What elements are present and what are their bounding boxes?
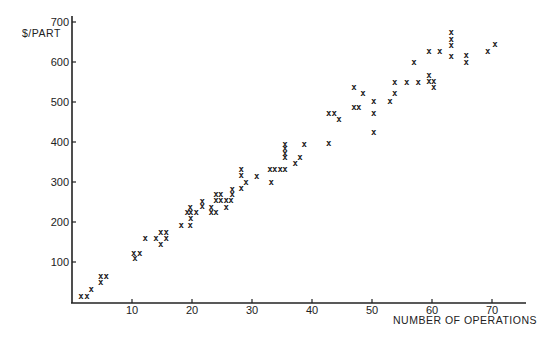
y-tick-label: 200 — [51, 216, 69, 228]
y-tick-label: 600 — [51, 56, 69, 68]
data-point-x-marker: x — [229, 189, 235, 199]
data-point-x-marker: x — [492, 39, 498, 49]
x-tick-label: 50 — [366, 304, 378, 316]
y-tick-label: 300 — [51, 176, 69, 188]
data-point-x-marker: x — [292, 158, 298, 168]
data-point-x-marker: x — [163, 233, 169, 243]
data-point-x-marker: x — [213, 207, 219, 217]
data-point-x-marker: x — [88, 284, 94, 294]
data-point-x-marker: x — [98, 277, 104, 287]
data-point-x-marker: x — [356, 102, 362, 112]
data-point-x-marker: x — [448, 40, 454, 50]
data-point-x-marker: x — [142, 233, 148, 243]
data-points: xxxxxxxxxxxxxxxxxxxxxxxxxxxxxxxxxxxxxxxx… — [78, 27, 498, 301]
data-point-x-marker: x — [415, 77, 421, 87]
data-point-x-marker: x — [199, 201, 205, 211]
data-point-x-marker: x — [392, 88, 398, 98]
y-axis-title: $/PART — [22, 27, 61, 39]
data-point-x-marker: x — [351, 82, 357, 92]
data-point-x-marker: x — [282, 152, 288, 162]
x-tick-label: 40 — [306, 304, 318, 316]
x-tick-label: 20 — [186, 304, 198, 316]
data-point-x-marker: x — [188, 213, 194, 223]
data-point-x-marker: x — [132, 253, 138, 263]
data-point-x-marker: x — [103, 271, 109, 281]
data-point-x-marker: x — [437, 46, 443, 56]
data-point-x-marker: x — [282, 164, 288, 174]
data-point-x-marker: x — [371, 96, 377, 106]
data-point-x-marker: x — [268, 177, 274, 187]
data-point-x-marker: x — [158, 239, 164, 249]
scatter-chart: 100200300400500600700 10203040506070 $/P… — [0, 0, 557, 344]
data-point-x-marker: x — [404, 77, 410, 87]
data-point-x-marker: x — [254, 171, 260, 181]
data-point-x-marker: x — [448, 51, 454, 61]
data-point-x-marker: x — [297, 152, 303, 162]
data-point-x-marker: x — [411, 57, 417, 67]
y-tick-label: 400 — [51, 136, 69, 148]
data-point-x-marker: x — [426, 46, 432, 56]
data-point-x-marker: x — [371, 127, 377, 137]
x-axis-title: NUMBER OF OPERATIONS — [393, 314, 537, 326]
x-tick-label: 30 — [246, 304, 258, 316]
data-point-x-marker: x — [371, 108, 377, 118]
data-point-x-marker: x — [326, 138, 332, 148]
x-tick-label: 10 — [126, 304, 138, 316]
data-point-x-marker: x — [360, 88, 366, 98]
data-point-x-marker: x — [485, 46, 491, 56]
data-point-x-marker: x — [137, 248, 143, 258]
y-tick-label: 500 — [51, 96, 69, 108]
data-point-x-marker: x — [178, 220, 184, 230]
data-point-x-marker: x — [463, 57, 469, 67]
data-point-x-marker: x — [431, 82, 437, 92]
data-point-x-marker: x — [336, 114, 342, 124]
data-point-x-marker: x — [243, 177, 249, 187]
y-tick-label: 100 — [51, 256, 69, 268]
data-point-x-marker: x — [301, 139, 307, 149]
data-point-x-marker: x — [392, 77, 398, 87]
data-point-x-marker: x — [223, 202, 229, 212]
data-point-x-marker: x — [238, 183, 244, 193]
